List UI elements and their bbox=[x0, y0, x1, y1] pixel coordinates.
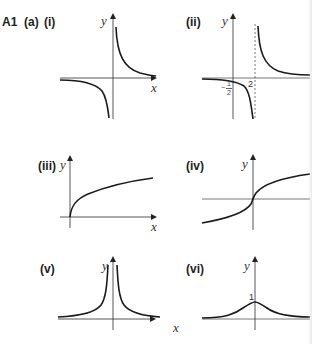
y-axis-label-v: y bbox=[102, 259, 108, 272]
y-intercept-denominator: 2 bbox=[226, 88, 232, 96]
graph-v bbox=[58, 259, 160, 330]
graph-i bbox=[60, 16, 156, 119]
curve-v-left bbox=[58, 265, 108, 317]
y-axis-label-i: y bbox=[101, 14, 107, 27]
question-number: A1 bbox=[2, 16, 17, 28]
curve-iii bbox=[70, 178, 153, 217]
panel-label-iv: (iv) bbox=[186, 160, 204, 172]
graph-iii bbox=[60, 158, 154, 228]
panel-label-i: (i) bbox=[44, 16, 55, 28]
panel-label-iii: (iii) bbox=[38, 160, 56, 172]
y-axis-label-vi: y bbox=[244, 259, 250, 272]
curve-iv bbox=[202, 174, 310, 223]
x-axis-label-i: x bbox=[151, 81, 157, 94]
panel-label-vi: (vi) bbox=[186, 263, 204, 275]
curve-vi bbox=[202, 302, 310, 318]
curve-v-right bbox=[117, 265, 160, 317]
curve-i-lower bbox=[60, 80, 109, 118]
curve-ii-right bbox=[258, 26, 310, 75]
x-axis-label-v: x bbox=[173, 321, 179, 334]
panel-label-ii: (ii) bbox=[186, 16, 201, 28]
y-axis-label-iii: y bbox=[60, 158, 66, 171]
x-axis-label-iii: x bbox=[151, 220, 157, 233]
part-label: (a) bbox=[24, 16, 39, 28]
page-edge bbox=[308, 0, 312, 344]
y-axis-label-ii: y bbox=[222, 14, 228, 27]
max-value-label: 1 bbox=[249, 293, 254, 302]
panel-label-v: (v) bbox=[40, 263, 55, 275]
asymptote-value-label: 2 bbox=[248, 80, 253, 89]
graph-vi bbox=[202, 259, 310, 330]
graph-ii bbox=[202, 16, 310, 119]
curve-i-upper bbox=[116, 27, 156, 76]
y-axis-label-iv: y bbox=[242, 157, 248, 170]
y-intercept-sign: − bbox=[221, 84, 225, 91]
y-intercept-numerator: 1 bbox=[226, 80, 232, 87]
graph-iv bbox=[202, 157, 310, 230]
